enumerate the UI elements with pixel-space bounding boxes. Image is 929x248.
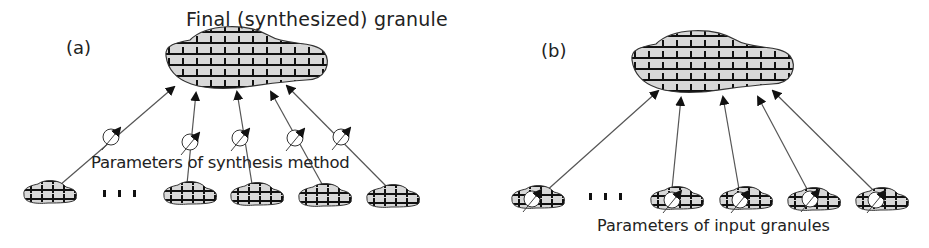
panel-b [512,31,909,213]
ellipsis-a [103,190,136,197]
diagram-canvas [0,0,929,248]
diagram-title: Final (synthesized) granule [186,10,448,29]
input-granules-a [24,181,420,208]
panel-b-label: (b) [541,42,566,60]
final-granule-a [166,27,328,89]
arrows-b [545,91,873,192]
panel-a-caption: Parameters of synthesis method [91,155,349,172]
panel-a-label: (a) [66,39,91,57]
ellipsis-b [589,193,622,200]
final-granule-b [632,31,794,93]
panel-b-caption: Parameters of input granules [597,218,830,234]
synthesis-parameter-knobs [102,128,350,155]
input-granules-b [512,186,909,211]
